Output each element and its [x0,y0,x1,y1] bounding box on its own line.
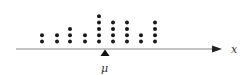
dot-column [40,33,44,43]
dot-column [111,21,115,44]
mean-label: μ [101,62,108,75]
data-dot [125,33,129,37]
data-dot [97,27,101,31]
dot-column [68,27,72,44]
dot-column [97,14,101,43]
dot-column [55,33,59,43]
x-axis-arrowhead-icon [212,46,222,53]
data-dot [153,27,157,31]
data-dot [68,33,72,37]
data-dot [40,40,44,44]
data-dot [139,40,143,44]
data-dot [97,33,101,37]
x-axis-label: x [231,43,238,56]
data-dot [125,40,129,44]
dot-column [83,33,87,43]
data-dot [83,40,87,44]
data-dot [97,14,101,18]
data-dot [68,40,72,44]
data-dot [97,40,101,44]
dot-column [139,33,143,43]
data-dot [83,33,87,37]
data-dot [139,33,143,37]
data-dot [153,40,157,44]
data-dot [153,33,157,37]
data-dot [97,21,101,25]
data-dot [55,40,59,44]
data-dot [55,33,59,37]
dot-columns [40,14,157,43]
data-dot [111,40,115,44]
data-dot [40,33,44,37]
data-dot [68,27,72,31]
data-dot [153,21,157,25]
data-dot [111,33,115,37]
data-dot [111,27,115,31]
data-dot [125,21,129,25]
data-dot [111,21,115,25]
mean-marker-triangle-icon [101,50,110,57]
dot-column [153,21,157,44]
dot-plot-diagram: x μ [0,0,247,75]
data-dot [125,27,129,31]
dot-column [125,21,129,44]
